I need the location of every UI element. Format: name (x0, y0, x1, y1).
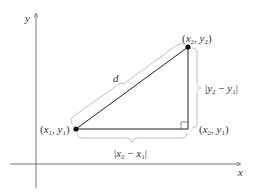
corner-point-label: (x2, y1) (199, 123, 229, 137)
right-angle-icon (181, 122, 188, 129)
horizontal-distance-label: |x2 − x1| (114, 147, 147, 161)
vertical-distance-label: |y2 − y1| (205, 82, 238, 96)
hypotenuse-line (76, 47, 188, 129)
hypotenuse-brace (71, 44, 185, 125)
x-axis-label: x (237, 166, 243, 178)
point-p2-label: (x2, y2) (182, 32, 212, 46)
vertical-brace (192, 48, 201, 128)
horizontal-brace (77, 133, 187, 142)
distance-label: d (113, 72, 119, 84)
y-axis-label: y (24, 12, 30, 24)
point-p1 (73, 126, 78, 131)
point-p1-label: (x1, y1) (40, 123, 70, 137)
distance-diagram: y x d (x2, y2) (x1, y1) (x2, y1) |y2 − y… (0, 0, 258, 194)
